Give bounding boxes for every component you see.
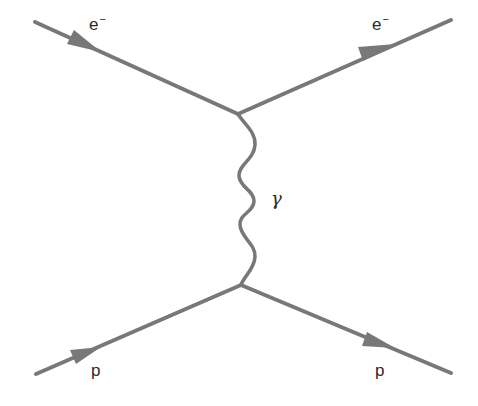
label-outgoing-proton: p xyxy=(375,362,384,379)
particle-symbol: e xyxy=(89,15,98,34)
photon-symbol: γ xyxy=(271,188,282,209)
incoming-proton-line xyxy=(36,285,241,374)
label-photon: γ xyxy=(271,190,282,208)
label-incoming-electron: e− xyxy=(89,14,106,33)
charge-superscript: − xyxy=(382,13,388,25)
charge-superscript: − xyxy=(99,13,105,25)
particle-symbol: p xyxy=(91,361,100,380)
particle-symbol: e xyxy=(372,15,381,34)
photon-propagator-wave xyxy=(238,114,255,285)
particle-symbol: p xyxy=(375,361,384,380)
label-incoming-proton: p xyxy=(91,362,100,379)
feynman-diagram xyxy=(0,0,478,406)
outgoing-proton-line xyxy=(241,285,451,373)
label-outgoing-electron: e− xyxy=(372,14,389,33)
incoming-electron-line xyxy=(35,22,238,114)
arrow-icon xyxy=(362,332,395,348)
outgoing-electron-line xyxy=(238,20,451,114)
arrow-icon xyxy=(358,44,396,61)
